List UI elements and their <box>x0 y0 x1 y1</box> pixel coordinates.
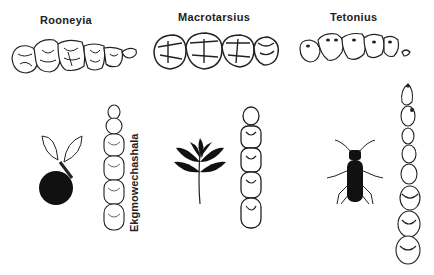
fruit-icon <box>38 132 98 212</box>
tetonius-toothrow <box>298 30 434 70</box>
macrotarsius-lower-toothrow <box>238 106 264 236</box>
leaf-icon <box>172 132 232 212</box>
label-macrotarsius: Macrotarsius <box>178 11 250 23</box>
rooneyia-toothrow <box>10 38 150 78</box>
ekgmowechashala-toothrow <box>102 104 126 234</box>
label-tetonius: Tetonius <box>330 11 377 23</box>
insect-icon <box>323 138 389 218</box>
macrotarsius-toothrow <box>152 33 292 73</box>
label-rooneyia: Rooneyia <box>40 14 92 26</box>
label-ekgmowechashala: Ekgmowechashala <box>128 134 140 232</box>
tetonius-lower-toothrow <box>394 82 426 272</box>
